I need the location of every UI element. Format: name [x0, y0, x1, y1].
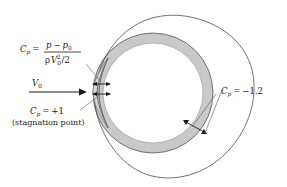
pressure-coefficient-diagram: Cp= p−p0 ρV02/2 V0 Cp=+1 (stagnation poi…	[0, 0, 287, 187]
svg-text:p−p0: p−p0	[46, 40, 72, 51]
stagnation-equals: =	[42, 106, 49, 116]
cpmin-subscript: p	[228, 91, 232, 98]
numerator-p: p	[46, 40, 52, 50]
denominator-tail: /2	[62, 55, 70, 65]
numerator-minus: −	[53, 40, 60, 50]
svg-text:ρV02/2: ρV02/2	[45, 54, 70, 66]
cpmin-value: −1.2	[242, 86, 263, 96]
denominator-rho: ρ	[45, 55, 50, 65]
freestream-velocity-label: V0	[32, 78, 42, 89]
denominator-V-sup: 2	[57, 54, 61, 60]
stagnation-value: +1	[51, 106, 64, 116]
stagnation-cp-subscript: p	[37, 111, 41, 118]
denominator-V-sub: 0	[57, 60, 61, 66]
cp-subscript: p	[27, 49, 31, 56]
cylinder-inner-wall	[103, 43, 203, 143]
svg-text:Cp=−1.2: Cp=−1.2	[221, 86, 263, 98]
cp-equals: =	[32, 44, 39, 54]
v0-arrowhead-icon	[79, 89, 87, 96]
v0-subscript: 0	[38, 83, 42, 89]
numerator-p0-sub: 0	[68, 45, 72, 51]
stagnation-note: (stagnation point)	[12, 118, 85, 127]
cylinder-annulus	[93, 33, 213, 153]
freestream-arrow	[29, 89, 87, 96]
cp-min-label: Cp=−1.2	[221, 86, 263, 98]
cpmin-equals: =	[233, 86, 240, 96]
svg-text:Cp=: Cp=	[20, 44, 39, 56]
svg-text:Cp=+1: Cp=+1	[30, 106, 64, 118]
svg-text:V0: V0	[32, 78, 42, 89]
stagnation-label: Cp=+1 (stagnation point)	[12, 106, 85, 127]
cp-definition-label: Cp= p−p0 ρV02/2	[20, 40, 81, 66]
